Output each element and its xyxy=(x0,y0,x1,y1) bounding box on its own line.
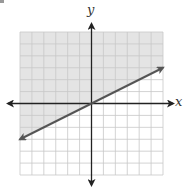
coordinate-plane xyxy=(0,0,189,194)
y-axis-label: y xyxy=(87,2,94,17)
x-axis-label: x xyxy=(175,94,182,109)
